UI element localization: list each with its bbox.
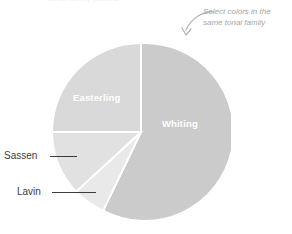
pie-label-easterling: Easterling (73, 92, 120, 103)
pie-chart (51, 42, 231, 222)
pie-chart-figure: tonal family palette Easterling Whiting … (0, 0, 292, 234)
pie-label-sassen: Sassen (4, 150, 37, 162)
pie-slice-easterling[interactable] (52, 43, 141, 132)
clipped-header-title: tonal family palette (48, 0, 198, 4)
leader-line-sassen (50, 156, 77, 157)
pie-label-lavin: Lavin (17, 186, 41, 198)
pie-chart-svg (51, 42, 231, 222)
leader-line-lavin (52, 192, 96, 193)
pie-label-whiting: Whiting (162, 118, 198, 129)
annotation-line-1: Select colors in the (203, 7, 292, 18)
annotation-text: Select colors in the same tonal family (203, 7, 292, 28)
annotation-line-2: same tonal family (203, 18, 292, 29)
